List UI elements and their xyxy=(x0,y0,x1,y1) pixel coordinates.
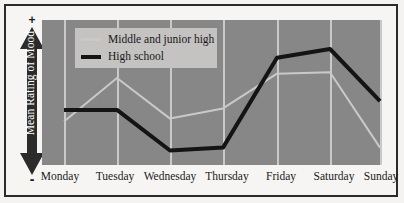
legend-label-high-school: High school xyxy=(108,50,164,63)
figure-container: + Mean Rating of Mood - Middle and junio… xyxy=(0,0,404,203)
y-axis-label: Mean Rating of Mood xyxy=(21,19,39,147)
x-axis-tick-sunday: Sunday xyxy=(348,168,404,184)
legend-item-middle-and-junior-high: Middle and junior high xyxy=(81,31,211,48)
legend: Middle and junior high High school xyxy=(75,28,217,68)
legend-swatch-high-school xyxy=(81,55,101,59)
legend-swatch-middle-and-junior-high xyxy=(81,38,101,41)
x-axis-labels: Monday Tuesday Wednesday Thursday Friday… xyxy=(8,168,396,190)
legend-item-high-school: High school xyxy=(81,48,211,65)
legend-label-middle-and-junior-high: Middle and junior high xyxy=(108,33,214,46)
